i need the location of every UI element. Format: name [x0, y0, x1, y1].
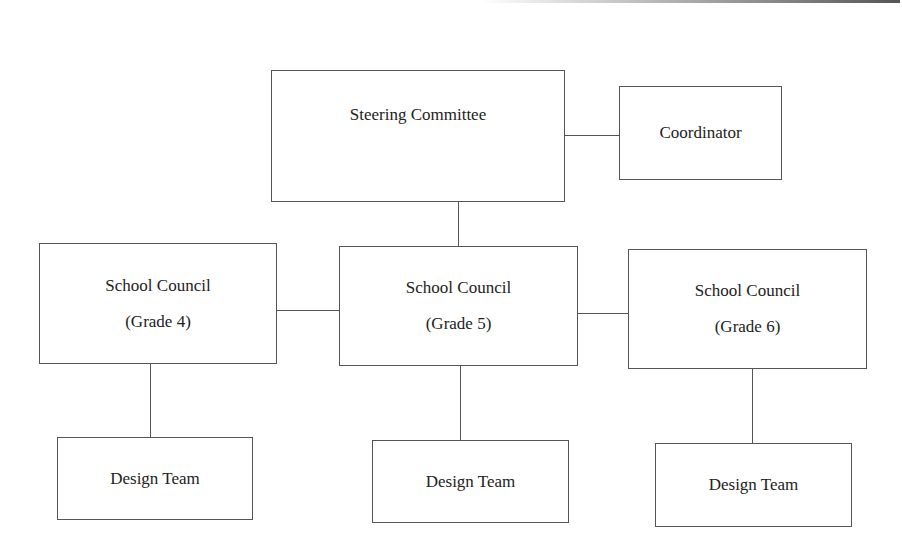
- node-label: Coordinator: [659, 115, 741, 151]
- node-design-team-grade-5: Design Team: [372, 440, 569, 523]
- node-label: Design Team: [426, 464, 516, 500]
- node-school-council-grade-5: School Council (Grade 5): [339, 246, 578, 366]
- node-steering-committee: Steering Committee: [271, 70, 565, 202]
- node-subtitle: (Grade 6): [715, 309, 781, 345]
- node-design-team-grade-4: Design Team: [57, 437, 253, 520]
- node-label: Steering Committee: [350, 97, 486, 133]
- node-school-council-grade-4: School Council (Grade 4): [39, 243, 277, 364]
- connector-council-g4-design: [150, 364, 151, 437]
- connector-council-g4-g5: [277, 310, 339, 311]
- connector-council-g5-design: [460, 366, 461, 440]
- node-title: School Council: [406, 270, 511, 306]
- connector-steering-council-g5: [458, 202, 459, 246]
- node-label: Design Team: [709, 467, 799, 503]
- node-design-team-grade-6: Design Team: [655, 443, 852, 527]
- node-subtitle: (Grade 4): [125, 304, 191, 340]
- connector-council-g6-design: [752, 369, 753, 443]
- node-coordinator: Coordinator: [619, 86, 782, 180]
- node-school-council-grade-6: School Council (Grade 6): [628, 249, 867, 369]
- node-title: School Council: [105, 268, 210, 304]
- connector-council-g5-g6: [578, 313, 628, 314]
- node-title: School Council: [695, 273, 800, 309]
- page-top-rule: [480, 0, 900, 3]
- node-subtitle: (Grade 5): [426, 306, 492, 342]
- connector-steering-coordinator: [565, 135, 619, 136]
- node-label: Design Team: [110, 461, 200, 497]
